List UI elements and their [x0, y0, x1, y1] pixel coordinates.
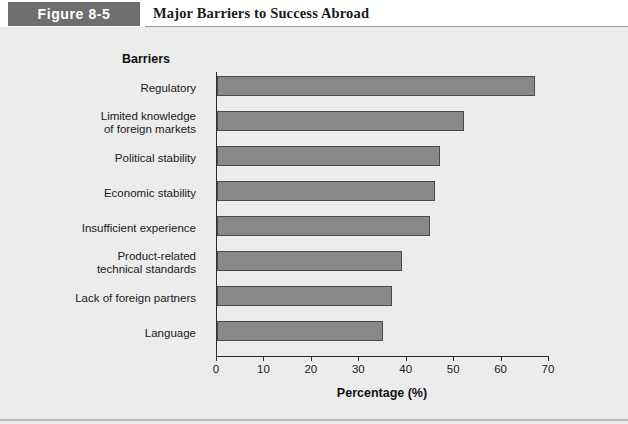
- bar-category-label-line: Insufficient experience: [0, 222, 196, 235]
- bar: [217, 321, 383, 341]
- x-axis-tick-label: 10: [243, 363, 283, 375]
- bar-category-label-line: of foreign markets: [0, 123, 196, 136]
- bar-category-label: Economic stability: [0, 187, 196, 200]
- x-axis-tick: [548, 356, 549, 361]
- x-axis-tick-label: 30: [338, 363, 378, 375]
- bar-rows: RegulatoryLimited knowledgeof foreign ma…: [0, 72, 628, 352]
- x-axis-tick: [453, 356, 454, 361]
- x-axis-tick: [263, 356, 264, 361]
- bar-row: Limited knowledgeof foreign markets: [0, 107, 628, 142]
- x-axis-tick-label: 40: [386, 363, 426, 375]
- x-axis-tick: [358, 356, 359, 361]
- bar-category-label: Political stability: [0, 152, 196, 165]
- x-axis-tick-label: 50: [433, 363, 473, 375]
- x-axis-title: Percentage (%): [216, 386, 548, 400]
- bar: [217, 111, 464, 131]
- bar-category-label-line: Language: [0, 327, 196, 340]
- x-axis-tick: [501, 356, 502, 361]
- x-axis-tick-label: 0: [196, 363, 236, 375]
- bar: [217, 181, 435, 201]
- x-axis-tick: [311, 356, 312, 361]
- figure-title: Major Barriers to Success Abroad: [153, 5, 369, 22]
- x-axis-tick-label: 60: [481, 363, 521, 375]
- bar-category-label: Insufficient experience: [0, 222, 196, 235]
- bar-row: Insufficient experience: [0, 212, 628, 247]
- bar: [217, 216, 430, 236]
- bar-row: Lack of foreign partners: [0, 282, 628, 317]
- bar-category-label-line: Lack of foreign partners: [0, 292, 196, 305]
- bar-category-label: Product-relatedtechnical standards: [0, 250, 196, 276]
- bar-category-label: Lack of foreign partners: [0, 292, 196, 305]
- bar-category-label: Language: [0, 327, 196, 340]
- bar-category-label-line: Limited knowledge: [0, 110, 196, 123]
- bar-row: Political stability: [0, 142, 628, 177]
- bar-category-label-line: Political stability: [0, 152, 196, 165]
- bar: [217, 251, 402, 271]
- bar-category-label-line: Economic stability: [0, 187, 196, 200]
- bar: [217, 76, 535, 96]
- bar-category-label: Regulatory: [0, 82, 196, 95]
- x-axis-tick: [406, 356, 407, 361]
- figure-header: Figure 8-5 Major Barriers to Success Abr…: [0, 0, 628, 27]
- figure-container: Figure 8-5 Major Barriers to Success Abr…: [0, 0, 628, 424]
- y-axis-line: [216, 72, 217, 357]
- x-axis-tick-label: 20: [291, 363, 331, 375]
- bar-category-label: Limited knowledgeof foreign markets: [0, 110, 196, 136]
- y-axis-heading: Barriers: [96, 52, 196, 66]
- bar-row: Language: [0, 317, 628, 352]
- bar-category-label-line: Regulatory: [0, 82, 196, 95]
- bar-category-label-line: Product-related: [0, 250, 196, 263]
- bar-row: Regulatory: [0, 72, 628, 107]
- x-axis-line: [216, 356, 548, 357]
- bar-row: Economic stability: [0, 177, 628, 212]
- bar: [217, 146, 440, 166]
- figure-number-badge: Figure 8-5: [8, 2, 140, 26]
- bar: [217, 286, 392, 306]
- x-axis-tick: [216, 356, 217, 361]
- x-axis-tick-label: 70: [528, 363, 568, 375]
- bar-row: Product-relatedtechnical standards: [0, 247, 628, 282]
- figure-bottom-edge: [0, 419, 628, 421]
- bar-category-label-line: technical standards: [0, 263, 196, 276]
- chart-plot-area: Barriers RegulatoryLimited knowledgeof f…: [0, 27, 628, 419]
